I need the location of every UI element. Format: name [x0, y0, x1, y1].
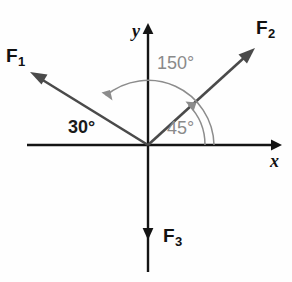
- y-axis-label: y: [132, 22, 140, 40]
- vector-label-f3-subscript: 3: [175, 234, 183, 249]
- angle-label-45: 45°: [167, 119, 194, 137]
- vector-label-f2-symbol: F: [256, 17, 268, 38]
- vector-f3-arrowhead-icon: [143, 228, 154, 240]
- angle-label-30: 30°: [68, 118, 95, 136]
- x-axis-arrowhead-icon: [271, 140, 282, 151]
- vector-label-f1-symbol: F: [6, 45, 18, 66]
- vector-label-f2: F2: [256, 18, 275, 40]
- x-axis-label: x: [270, 152, 279, 170]
- vector-f3: [143, 228, 154, 240]
- angle-label-150: 150°: [157, 54, 194, 72]
- vector-label-f2-subscript: 2: [268, 26, 276, 41]
- vector-label-f3: F3: [163, 226, 182, 248]
- vector-label-f1: F1: [6, 46, 25, 68]
- diagram-canvas: [0, 0, 292, 282]
- x-axis: [27, 140, 282, 151]
- vector-label-f1-subscript: 1: [18, 54, 26, 69]
- force-vector-diagram: F1 F2 F3 y x 30° 150° 45°: [0, 0, 292, 282]
- vector-label-f3-symbol: F: [163, 225, 175, 246]
- y-axis-arrowhead-icon: [143, 23, 154, 34]
